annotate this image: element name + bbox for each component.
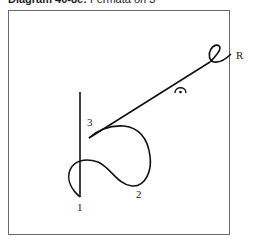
label-point-1: 1	[77, 201, 83, 213]
label-release: R	[236, 49, 244, 61]
beat-path	[69, 126, 151, 197]
label-point-3: 3	[87, 116, 93, 128]
diagonal-line	[89, 62, 210, 138]
label-point-2: 2	[136, 188, 142, 200]
fermata-icon	[175, 88, 186, 94]
release-curl-icon	[209, 45, 231, 62]
conducting-pattern-diagram: 1 2 3 R	[0, 0, 257, 245]
